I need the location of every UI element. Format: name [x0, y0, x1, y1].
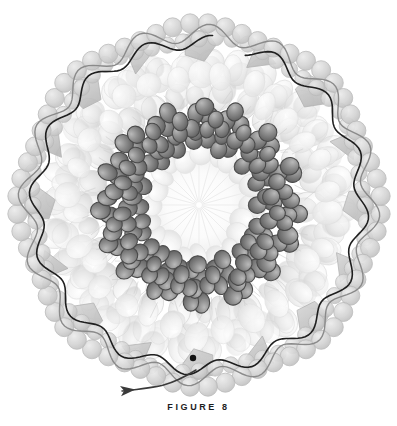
figure-caption: FIGURE 8 [0, 402, 397, 412]
figure-container: FIGURE 8 [0, 0, 397, 426]
trace-terminus-dot [190, 355, 196, 361]
capsid-diagram [0, 0, 397, 426]
